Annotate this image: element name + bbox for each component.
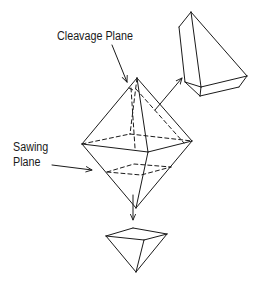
sawing-plane-label-line1: Sawing xyxy=(13,140,48,155)
cleaved-fragment xyxy=(179,12,247,96)
cleave-separation-arrow xyxy=(155,78,182,110)
cleavage-plane-label: Cleavage Plane xyxy=(57,29,133,44)
sawing-plane-label-line2: Plane xyxy=(13,155,48,170)
sawing-label-arrow xyxy=(52,165,92,170)
sawing-plane-label: Sawing Plane xyxy=(13,140,48,170)
octahedron-crystal xyxy=(82,78,192,208)
cleavage-label-arrow xyxy=(112,45,127,82)
sawn-fragment xyxy=(106,228,167,272)
